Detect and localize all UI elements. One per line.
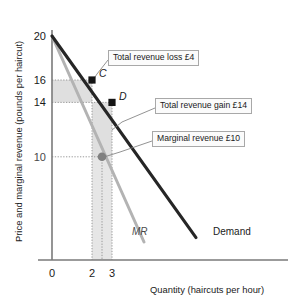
data-point-c: [88, 76, 95, 83]
label-demand-series: Demand: [213, 226, 251, 237]
annotation-marginal-revenue: Marginal revenue £10: [152, 131, 245, 147]
y-tick-20: 20: [34, 30, 46, 42]
annotation-total-revenue-gain: Total revenue gain £14: [155, 98, 252, 114]
x-tick-2: 2: [89, 267, 95, 279]
annotation-total-revenue-loss: Total revenue loss £4: [108, 50, 199, 66]
x-axis-title: Quantity (haircuts per hour): [150, 284, 264, 295]
y-tick-14: 14: [34, 96, 46, 108]
chart-canvas: C D MR Demand 20 16 14 10 0 2 3 Price an…: [0, 0, 297, 304]
y-tick-10: 10: [34, 151, 46, 163]
label-point-c: C: [99, 67, 107, 79]
x-tick-3: 3: [109, 267, 115, 279]
data-point-marginal-revenue: [98, 153, 107, 162]
label-mr-series: MR: [132, 226, 148, 237]
label-point-d: D: [119, 90, 127, 102]
economics-chart-figure: C D MR Demand 20 16 14 10 0 2 3 Price an…: [0, 0, 297, 304]
y-tick-16: 16: [34, 74, 46, 86]
y-axis-title: Price and marginal revenue (pounds per h…: [13, 41, 24, 242]
data-point-d: [108, 99, 115, 106]
x-tick-0: 0: [49, 267, 55, 279]
